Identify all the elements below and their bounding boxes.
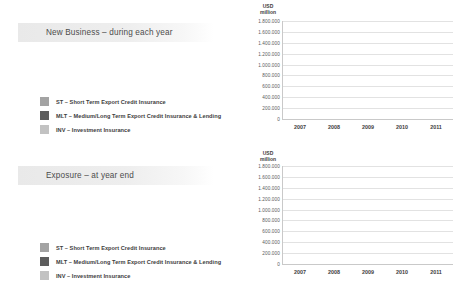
legend-label-inv: INV – Investment Insurance <box>56 127 130 133</box>
gridline <box>283 54 453 55</box>
y-axis-tick-label: 400.000 <box>262 240 280 245</box>
x-axis-label-2009: 2009 <box>358 124 379 130</box>
gridline <box>283 75 453 76</box>
y-axis-tick-label: 1.200.000 <box>258 196 280 201</box>
y-axis-tick-label: 1.800.000 <box>258 19 280 24</box>
gridline <box>283 166 453 167</box>
legend-label-mlt: MLT – Medium/Long Term Export Credit Ins… <box>56 259 221 265</box>
y-axis-tick-label: 1.000.000 <box>258 62 280 67</box>
gridline <box>283 21 453 22</box>
y-axis-tick-label: 800.000 <box>262 73 280 78</box>
y-axis-tick-label: 1.400.000 <box>258 40 280 45</box>
plot-area-new-business: 20072008200920102011 0200.000400.000600.… <box>282 21 453 120</box>
y-axis-tick-label: 1.600.000 <box>258 29 280 34</box>
axis-unit-label-exposure: USD million <box>246 150 290 162</box>
gridline <box>283 108 453 109</box>
y-axis-tick-label: 1.400.000 <box>258 185 280 190</box>
legend-swatch-mlt-icon <box>40 257 49 266</box>
x-axis-label-2010: 2010 <box>392 269 413 275</box>
x-axis-label-2010: 2010 <box>392 124 413 130</box>
legend-swatch-mlt-icon <box>40 111 49 120</box>
gridline <box>283 231 453 232</box>
legend-item-st: ST – Short Term Export Credit Insurance <box>40 95 221 108</box>
legend-label-inv: INV – Investment Insurance <box>56 273 130 279</box>
x-axis-label-2008: 2008 <box>324 269 345 275</box>
legend-item-inv: INV – Investment Insurance <box>40 269 221 282</box>
panel-left-column-new-business: New Business – during each year ST – Sho… <box>0 0 232 146</box>
gridline <box>283 65 453 66</box>
x-axis-label-2009: 2009 <box>358 269 379 275</box>
gridline <box>283 242 453 243</box>
bar-group-new-business <box>283 21 453 119</box>
x-axis-labels-exposure: 20072008200920102011 <box>283 264 453 275</box>
legend-label-st: ST – Short Term Export Credit Insurance <box>56 245 166 251</box>
x-axis-labels-new-business: 20072008200920102011 <box>283 119 453 130</box>
banner-new-business: New Business – during each year <box>18 23 214 42</box>
legend-exposure: ST – Short Term Export Credit InsuranceM… <box>40 241 221 283</box>
y-axis-tick-label: 600.000 <box>262 229 280 234</box>
x-axis-label-2008: 2008 <box>324 124 345 130</box>
axis-unit-line2: million <box>246 9 290 15</box>
x-axis-label-2011: 2011 <box>426 269 447 275</box>
gridline <box>283 97 453 98</box>
gridline <box>283 210 453 211</box>
chart-exposure: USD million 20072008200920102011 0200.00… <box>232 147 470 293</box>
x-axis-label-2007: 2007 <box>290 124 311 130</box>
gridline <box>283 43 453 44</box>
y-axis-tick-label: 1.800.000 <box>258 164 280 169</box>
panel-left-column-exposure: Exposure – at year end ST – Short Term E… <box>0 147 232 293</box>
y-axis-tick-label: 0 <box>277 117 280 122</box>
panel-new-business: New Business – during each year ST – Sho… <box>0 0 470 146</box>
banner-title-new-business: New Business – during each year <box>46 28 173 37</box>
legend-swatch-inv-icon <box>40 271 49 280</box>
legend-item-mlt: MLT – Medium/Long Term Export Credit Ins… <box>40 109 221 122</box>
bar-group-exposure <box>283 166 453 264</box>
gridline <box>283 220 453 221</box>
panel-exposure: Exposure – at year end ST – Short Term E… <box>0 147 470 293</box>
y-axis-tick-label: 0 <box>277 262 280 267</box>
y-axis-tick-label: 1.600.000 <box>258 174 280 179</box>
gridline <box>283 199 453 200</box>
banner-exposure: Exposure – at year end <box>18 166 214 185</box>
gridline <box>283 86 453 87</box>
legend-label-st: ST – Short Term Export Credit Insurance <box>56 99 166 105</box>
legend-swatch-inv-icon <box>40 125 49 134</box>
gridline <box>283 177 453 178</box>
banner-title-exposure: Exposure – at year end <box>46 171 134 180</box>
legend-item-mlt: MLT – Medium/Long Term Export Credit Ins… <box>40 255 221 268</box>
legend-label-mlt: MLT – Medium/Long Term Export Credit Ins… <box>56 113 221 119</box>
legend-new-business: ST – Short Term Export Credit InsuranceM… <box>40 95 221 137</box>
y-axis-tick-label: 400.000 <box>262 95 280 100</box>
y-axis-tick-label: 200.000 <box>262 106 280 111</box>
gridline <box>283 253 453 254</box>
gridline <box>283 32 453 33</box>
axis-unit-line2: million <box>246 156 290 162</box>
axis-unit-label-new-business: USD million <box>246 3 290 15</box>
gridline <box>283 188 453 189</box>
legend-item-st: ST – Short Term Export Credit Insurance <box>40 241 221 254</box>
y-axis-tick-label: 600.000 <box>262 84 280 89</box>
chart-new-business: USD million 20072008200920102011 0200.00… <box>232 0 470 146</box>
x-axis-label-2011: 2011 <box>426 124 447 130</box>
legend-item-inv: INV – Investment Insurance <box>40 123 221 136</box>
y-axis-tick-label: 1.200.000 <box>258 51 280 56</box>
y-axis-tick-label: 1.000.000 <box>258 207 280 212</box>
x-axis-label-2007: 2007 <box>290 269 311 275</box>
legend-swatch-st-icon <box>40 243 49 252</box>
plot-area-exposure: 20072008200920102011 0200.000400.000600.… <box>282 166 453 265</box>
legend-swatch-st-icon <box>40 97 49 106</box>
y-axis-tick-label: 200.000 <box>262 251 280 256</box>
y-axis-tick-label: 800.000 <box>262 218 280 223</box>
